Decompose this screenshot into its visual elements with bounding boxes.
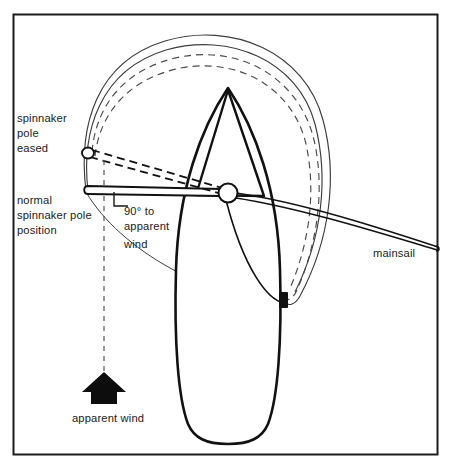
label-spinnaker-pole-eased-line2: pole [17, 127, 39, 139]
mast-section [219, 184, 238, 203]
label-apparent-wind: apparent wind [72, 412, 144, 424]
sheet-fitting-block [279, 292, 288, 308]
label-normal-pole-line3: position [17, 224, 57, 236]
label-ninety-line2: apparent [124, 220, 170, 232]
label-normal-pole-line2: spinnaker pole [17, 209, 92, 221]
label-ninety-line1: 90° to [124, 205, 154, 217]
label-ninety-line3: wind [123, 238, 148, 250]
label-spinnaker-pole-eased-line3: eased [17, 142, 48, 154]
label-spinnaker-pole-eased-line1: spinnaker [17, 112, 67, 124]
label-normal-pole-line1: normal [17, 194, 52, 206]
label-mainsail: mainsail [373, 247, 415, 259]
spinnaker-diagram-figure: spinnaker pole eased normal spinnaker po… [0, 0, 451, 470]
diagram-canvas: spinnaker pole eased normal spinnaker po… [0, 0, 451, 470]
pole-eased-end-fitting [82, 148, 94, 159]
